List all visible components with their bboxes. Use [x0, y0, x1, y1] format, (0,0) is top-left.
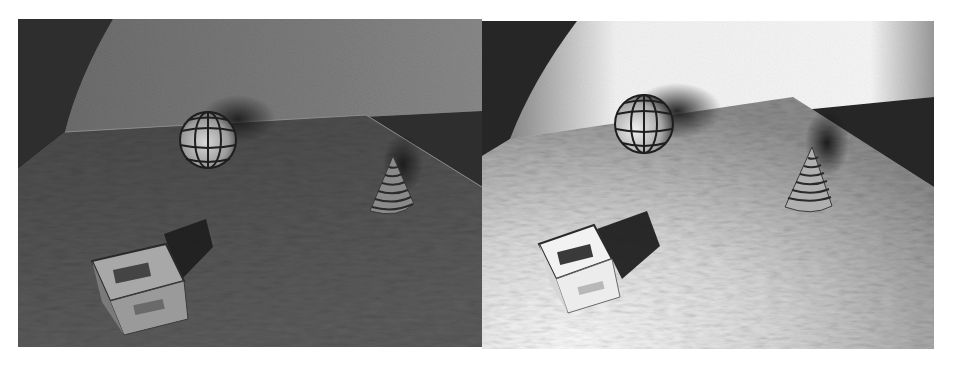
segmented-sphere — [615, 95, 673, 153]
right-scene — [482, 21, 934, 349]
right-render-panel — [482, 21, 934, 349]
segmented-sphere — [180, 112, 236, 168]
left-scene — [18, 19, 482, 347]
left-render-panel — [18, 19, 482, 347]
